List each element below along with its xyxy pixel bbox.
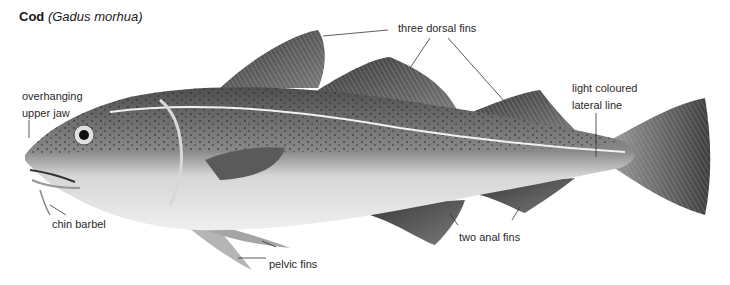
label-upper-jaw-line1: overhanging <box>22 88 102 105</box>
cod-illustration <box>0 0 730 285</box>
label-upper-jaw: overhanging upper jaw <box>22 88 102 122</box>
label-upper-jaw-line2: upper jaw <box>22 105 102 122</box>
first-dorsal-fin <box>220 30 325 88</box>
label-chin-barbel: chin barbel <box>52 216 106 233</box>
label-dorsal-fins: three dorsal fins <box>398 20 476 37</box>
chin-barbel <box>40 190 50 215</box>
label-pelvic-fins: pelvic fins <box>269 256 317 273</box>
label-lateral-line: light coloured lateral line <box>572 80 662 114</box>
label-lateral-line-line1: light coloured <box>572 80 662 97</box>
label-lateral-line-line2: lateral line <box>572 97 662 114</box>
label-anal-fins: two anal fins <box>459 229 520 246</box>
